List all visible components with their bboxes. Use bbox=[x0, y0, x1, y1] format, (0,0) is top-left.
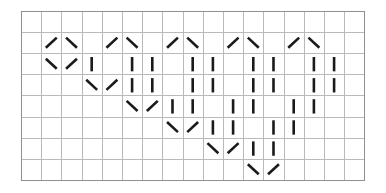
stitch-chart-container bbox=[21, 11, 365, 181]
cell-7-12-right-leaning-diagonal[interactable] bbox=[268, 164, 279, 174]
cell-5-8-right-leaning-diagonal[interactable] bbox=[187, 122, 198, 132]
cell-2-1-left-leaning-diagonal[interactable] bbox=[46, 59, 57, 69]
cell-1-7-right-leaning-diagonal[interactable] bbox=[167, 38, 178, 48]
cell-3-3-left-leaning-diagonal[interactable] bbox=[86, 80, 97, 90]
cell-2-2-right-leaning-diagonal[interactable] bbox=[66, 59, 77, 69]
cell-4-6-right-leaning-diagonal[interactable] bbox=[147, 101, 158, 111]
cell-3-4-right-leaning-diagonal[interactable] bbox=[106, 80, 117, 90]
stitch-chart-grid[interactable] bbox=[21, 11, 365, 181]
cell-5-7-left-leaning-diagonal[interactable] bbox=[167, 122, 178, 132]
cell-1-14-left-leaning-diagonal[interactable] bbox=[308, 38, 319, 48]
cell-1-1-right-leaning-diagonal[interactable] bbox=[46, 38, 57, 48]
cell-1-11-left-leaning-diagonal[interactable] bbox=[248, 38, 259, 48]
stitch-chart-screenshot bbox=[0, 0, 386, 193]
cell-1-13-right-leaning-diagonal[interactable] bbox=[288, 38, 299, 48]
cell-1-2-left-leaning-diagonal[interactable] bbox=[66, 38, 77, 48]
grid-lines-group bbox=[21, 12, 364, 181]
cell-7-11-left-leaning-diagonal[interactable] bbox=[248, 164, 259, 174]
cell-4-5-left-leaning-diagonal[interactable] bbox=[127, 101, 138, 111]
cell-1-8-left-leaning-diagonal[interactable] bbox=[187, 38, 198, 48]
cell-1-5-left-leaning-diagonal[interactable] bbox=[127, 38, 138, 48]
cell-1-4-right-leaning-diagonal[interactable] bbox=[106, 38, 117, 48]
symbols-group bbox=[46, 38, 334, 175]
cell-6-10-right-leaning-diagonal[interactable] bbox=[228, 143, 239, 153]
cell-6-9-left-leaning-diagonal[interactable] bbox=[207, 143, 218, 153]
cell-1-10-right-leaning-diagonal[interactable] bbox=[228, 38, 239, 48]
